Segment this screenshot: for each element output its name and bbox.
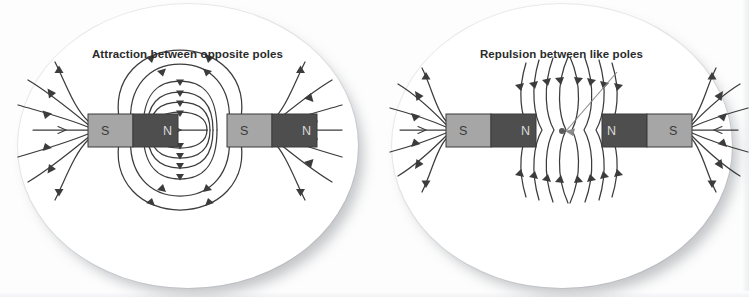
arrowhead <box>157 184 166 192</box>
panel-repulsion-title: Repulsion between like poles <box>374 48 749 60</box>
magnet-right-south-label: S <box>669 124 677 138</box>
arrowhead <box>157 69 166 77</box>
panel-attraction-title: Attraction between opposite poles <box>0 48 375 60</box>
magnet-left-south-label: S <box>101 124 109 138</box>
arrowhead <box>304 93 314 102</box>
arrowhead <box>203 69 212 77</box>
arrowhead <box>574 175 583 183</box>
arrowhead <box>203 184 212 192</box>
arrowhead <box>422 72 431 80</box>
arrowhead <box>296 189 305 197</box>
magnet-right-south-label: S <box>240 124 248 138</box>
panel-repulsion-diagram: S N N S <box>374 0 749 297</box>
panel-repulsion: S N N S Repulsion between like poles Neu… <box>374 0 749 297</box>
arrowhead <box>55 189 64 197</box>
arrowhead <box>146 198 155 206</box>
arrowhead <box>176 91 184 98</box>
arrowhead <box>48 89 57 99</box>
magnet-right-north-label: N <box>302 124 311 138</box>
figure-canvas: S N S N Attraction between opposite pole… <box>0 0 749 297</box>
panel-attraction-diagram: S N S N <box>0 0 375 297</box>
arrowhead <box>176 80 184 87</box>
magnet-left-south-label: S <box>459 124 467 138</box>
magnet-left-south-pole <box>446 114 491 147</box>
panel-attraction: S N S N Attraction between opposite pole… <box>0 0 375 297</box>
arrowhead <box>515 83 524 91</box>
arrowhead <box>614 83 623 91</box>
arrowhead <box>515 169 524 177</box>
neutral-point-dot <box>559 128 565 134</box>
arrowhead <box>708 181 717 189</box>
field-line-far-right-upper-inner <box>692 84 740 125</box>
magnet-right-south-pole <box>227 114 272 147</box>
magnet-left-north-label: N <box>163 124 172 138</box>
arrowhead <box>614 169 623 177</box>
arrowhead <box>422 181 431 189</box>
arrowhead <box>205 198 214 206</box>
arrowhead <box>43 143 53 151</box>
arrowhead <box>574 77 583 85</box>
arrowhead <box>176 101 184 108</box>
arrowhead <box>708 72 717 80</box>
magnet-right-north-label: N <box>607 124 616 138</box>
arrowhead <box>555 175 564 183</box>
arrowhead <box>55 66 64 74</box>
arrowhead <box>296 66 305 74</box>
magnet-left-south-pole <box>88 114 133 147</box>
field-line-far-left-upper-inner <box>398 84 446 125</box>
magnet-left-north-label: N <box>521 124 530 138</box>
arrowhead <box>555 77 564 85</box>
field-line-left-upper-inner <box>28 80 88 125</box>
